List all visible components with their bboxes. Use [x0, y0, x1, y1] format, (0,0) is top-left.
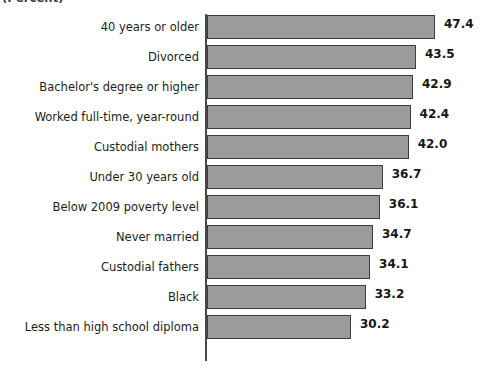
bar: [207, 15, 435, 39]
bar-row: 40 years or older47.4: [0, 12, 496, 42]
category-label: Custodial fathers: [101, 252, 199, 282]
bar-row: Custodial mothers42.0: [0, 132, 496, 162]
bar-row: Black33.2: [0, 282, 496, 312]
bar-container: [207, 255, 370, 279]
bar-container: [207, 105, 411, 129]
value-label: 42.4: [411, 102, 450, 126]
plot-area: 40 years or older47.4Divorced43.5Bachelo…: [0, 12, 496, 364]
value-label: 47.4: [435, 12, 474, 36]
value-label: 42.0: [409, 132, 448, 156]
bar: [207, 315, 351, 339]
bar: [207, 255, 370, 279]
value-label: 34.7: [373, 222, 412, 246]
bar-container: [207, 195, 380, 219]
category-label: Less than high school diploma: [25, 312, 199, 342]
bar: [207, 75, 413, 99]
category-label: Black: [168, 282, 199, 312]
bar: [207, 135, 409, 159]
bar-chart: (Percent) 40 years or older47.4Divorced4…: [0, 0, 496, 377]
bar: [207, 105, 411, 129]
value-label: 36.1: [380, 192, 419, 216]
bar-container: [207, 45, 416, 69]
bar-row: Custodial fathers34.1: [0, 252, 496, 282]
bar-container: [207, 315, 351, 339]
bar-container: [207, 15, 435, 39]
bar-container: [207, 165, 383, 189]
bar-row: Divorced43.5: [0, 42, 496, 72]
value-label: 43.5: [416, 42, 455, 66]
value-label: 33.2: [366, 282, 405, 306]
value-label: 42.9: [413, 72, 452, 96]
bar-container: [207, 285, 366, 309]
bar-row: Worked full-time, year-round42.4: [0, 102, 496, 132]
bar-row: Never married34.7: [0, 222, 496, 252]
category-label: Bachelor's degree or higher: [39, 72, 199, 102]
bar-container: [207, 135, 409, 159]
value-label: 30.2: [351, 312, 390, 336]
category-label: Below 2009 poverty level: [53, 192, 199, 222]
bar-container: [207, 75, 413, 99]
bar: [207, 165, 383, 189]
category-label: Custodial mothers: [94, 132, 199, 162]
bar-container: [207, 225, 373, 249]
bar: [207, 285, 366, 309]
bar-rows: 40 years or older47.4Divorced43.5Bachelo…: [0, 12, 496, 342]
bar-row: Bachelor's degree or higher42.9: [0, 72, 496, 102]
bar: [207, 195, 380, 219]
category-label: Never married: [116, 222, 199, 252]
bar-row: Less than high school diploma30.2: [0, 312, 496, 342]
bar-row: Under 30 years old36.7: [0, 162, 496, 192]
value-label: 34.1: [370, 252, 409, 276]
bar: [207, 45, 416, 69]
value-label: 36.7: [383, 162, 422, 186]
bar: [207, 225, 373, 249]
category-label: Under 30 years old: [89, 162, 199, 192]
category-label: Worked full-time, year-round: [35, 102, 199, 132]
category-label: Divorced: [148, 42, 199, 72]
bar-row: Below 2009 poverty level36.1: [0, 192, 496, 222]
axis-caption: (Percent): [2, 0, 64, 3]
category-label: 40 years or older: [101, 12, 199, 42]
